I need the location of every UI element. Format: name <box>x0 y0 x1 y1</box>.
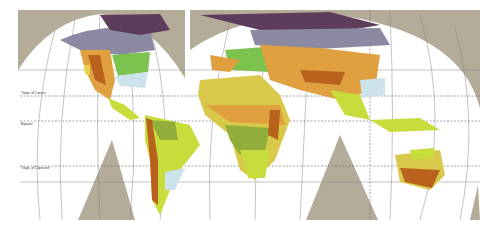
world-climate-map <box>0 0 497 227</box>
equator-label: Equator <box>21 122 33 126</box>
tropic-of-capricorn-label: Tropic of Capricorn <box>21 166 50 170</box>
australia <box>395 148 445 190</box>
tropic-of-cancer-label: Tropic of Cancer <box>21 91 46 95</box>
south-america <box>145 115 200 215</box>
north-america <box>60 14 170 120</box>
